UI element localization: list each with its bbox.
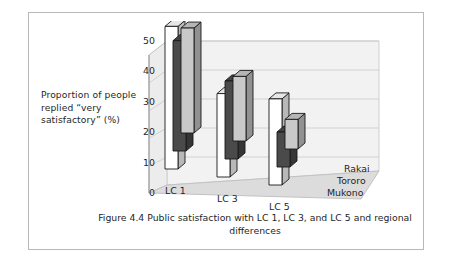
- chart-bars: [129, 21, 419, 211]
- series-label-tororo: Tororo: [337, 175, 366, 186]
- y-tick-0: 0: [135, 187, 155, 198]
- bar-mukono-lc5: [285, 113, 305, 149]
- y-tick-20: 20: [135, 126, 155, 137]
- x-axis-label-lc1: LC 1: [165, 185, 186, 196]
- x-axis-label-lc3: LC 3: [217, 193, 238, 204]
- bar-mukono-lc1: [181, 22, 201, 133]
- y-axis-ticks: 50403020100: [129, 21, 155, 211]
- y-tick-30: 30: [135, 96, 155, 107]
- series-label-rakai: Rakai: [344, 163, 370, 174]
- y-tick-50: 50: [135, 35, 155, 46]
- figure-frame: Proportion of people replied “very satis…: [28, 12, 424, 250]
- y-tick-10: 10: [135, 157, 155, 168]
- figure-caption: Figure 4.4 Public satisfaction with LC 1…: [73, 211, 437, 237]
- y-tick-40: 40: [135, 65, 155, 76]
- series-label-mukono: Mukono: [327, 187, 364, 198]
- chart-plot-area: 50403020100 LC 1 LC 3 LC 5 Rakai Tororo …: [129, 21, 419, 211]
- bar-mukono-lc3: [233, 70, 253, 141]
